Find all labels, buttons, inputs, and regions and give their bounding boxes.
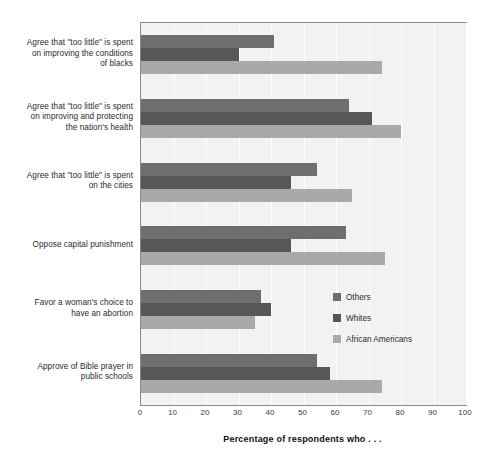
gridline-40 (271, 23, 272, 405)
bar-others-group-5 (141, 354, 317, 367)
category-axis-labels: Agree that "too little" is spenton impro… (0, 22, 133, 404)
category-label-line: on the cities (0, 181, 133, 192)
x-tick-0: 0 (125, 408, 155, 417)
x-tick-80: 80 (385, 408, 415, 417)
legend-swatch-icon (333, 314, 341, 322)
x-tick-20: 20 (190, 408, 220, 417)
x-tick-40: 40 (255, 408, 285, 417)
bar-others-group-2 (141, 163, 317, 176)
category-label-5: Approve of Bible prayer inpublic schools (0, 362, 133, 383)
x-axis-tick-labels: 0102030405060708090100 (0, 408, 490, 422)
x-tick-100: 100 (450, 408, 480, 417)
category-label-line: Oppose capital punishment (0, 240, 133, 251)
bar-others-group-1 (141, 99, 349, 112)
bar-whites-group-0 (141, 48, 239, 61)
category-label-line: on improving and protecting (0, 112, 133, 123)
legend-swatch-icon (333, 293, 341, 301)
category-label-line: have an abortion (0, 309, 133, 320)
category-label-line: the nation's health (0, 123, 133, 134)
chart-legend: OthersWhitesAfrican Americans (333, 289, 453, 352)
bar-african-group-3 (141, 252, 385, 265)
gridline-10 (174, 23, 175, 405)
gridline-30 (239, 23, 240, 405)
bar-african-group-4 (141, 316, 255, 329)
gridline-100 (466, 23, 467, 405)
bar-whites-group-2 (141, 176, 291, 189)
legend-item-whites[interactable]: Whites (333, 310, 453, 326)
category-label-line: of blacks (0, 59, 133, 70)
gridline-50 (304, 23, 305, 405)
legend-label: Whites (346, 314, 371, 323)
bar-african-group-2 (141, 189, 352, 202)
bar-others-group-4 (141, 290, 261, 303)
bar-african-group-1 (141, 125, 401, 138)
x-tick-50: 50 (288, 408, 318, 417)
bar-whites-group-5 (141, 367, 330, 380)
legend-item-others[interactable]: Others (333, 289, 453, 305)
bar-others-group-3 (141, 226, 346, 239)
legend-swatch-icon (333, 335, 341, 343)
category-label-4: Favor a woman's choice tohave an abortio… (0, 298, 133, 319)
category-label-line: on improving the conditions (0, 49, 133, 60)
bar-african-group-5 (141, 380, 382, 393)
legend-item-african[interactable]: African Americans (333, 331, 453, 347)
legend-label: African Americans (346, 335, 412, 344)
bar-whites-group-3 (141, 239, 291, 252)
chart-figure: Agree that "too little" is spenton impro… (0, 0, 490, 471)
x-tick-90: 90 (418, 408, 448, 417)
bar-whites-group-1 (141, 112, 372, 125)
category-label-0: Agree that "too little" is spenton impro… (0, 38, 133, 70)
x-tick-30: 30 (223, 408, 253, 417)
x-axis-title: Percentage of respondents who . . . (140, 434, 465, 444)
category-label-1: Agree that "too little" is spenton impro… (0, 102, 133, 134)
bar-others-group-0 (141, 35, 274, 48)
x-tick-60: 60 (320, 408, 350, 417)
legend-label: Others (346, 293, 371, 302)
category-label-line: Agree that "too little" is spent (0, 38, 133, 49)
x-tick-70: 70 (353, 408, 383, 417)
x-tick-10: 10 (158, 408, 188, 417)
bar-african-group-0 (141, 61, 382, 74)
category-label-line: Agree that "too little" is spent (0, 171, 133, 182)
category-label-line: Agree that "too little" is spent (0, 102, 133, 113)
category-label-3: Oppose capital punishment (0, 240, 133, 251)
category-label-line: public schools (0, 372, 133, 383)
bar-whites-group-4 (141, 303, 271, 316)
category-label-line: Approve of Bible prayer in (0, 362, 133, 373)
category-label-line: Favor a woman's choice to (0, 298, 133, 309)
category-label-2: Agree that "too little" is spenton the c… (0, 171, 133, 192)
gridline-20 (206, 23, 207, 405)
